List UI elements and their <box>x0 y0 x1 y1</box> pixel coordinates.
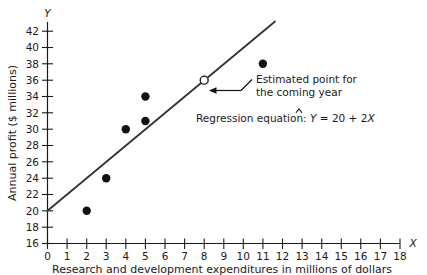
estimated-point-arrow <box>209 80 252 94</box>
data-point <box>122 125 130 133</box>
y-tick-label: 32 <box>26 107 39 119</box>
x-tick-label: 1 <box>64 250 71 262</box>
data-point <box>141 92 149 100</box>
x-tick-label: 14 <box>315 250 329 262</box>
svg-text:Regression equation: Y = 20 +: Regression equation: Y = 20 + 2X <box>196 112 375 124</box>
y-tick-label: 20 <box>26 205 39 217</box>
y-tick-label: 24 <box>26 172 40 184</box>
equation-x-symbol: X <box>366 112 375 124</box>
data-points <box>83 60 268 215</box>
y-tick-label: 42 <box>26 25 39 37</box>
estimated-point-note-line2: the coming year <box>256 86 343 98</box>
y-tick-label: 36 <box>26 74 40 86</box>
equation-prefix: Regression equation: <box>196 112 310 124</box>
estimated-point-note-line1: Estimated point for <box>256 73 358 85</box>
y-tick-label: 34 <box>26 90 40 102</box>
x-tick-label: 18 <box>393 250 406 262</box>
x-axis-title: Research and development expenditures in… <box>52 263 392 275</box>
scatter-chart-figure: 16 18 20 22 24 26 28 30 32 34 36 38 40 4… <box>0 0 427 275</box>
y-axis-letter: Y <box>44 7 52 19</box>
y-axis-title: Annual profit ($ millions) <box>6 65 19 201</box>
x-tick-label: 7 <box>181 250 188 262</box>
x-tick-label: 17 <box>374 250 387 262</box>
chart-canvas: 16 18 20 22 24 26 28 30 32 34 36 38 40 4… <box>0 0 427 275</box>
data-point <box>102 174 110 182</box>
x-tick-label: 5 <box>142 250 149 262</box>
x-tick-label: 4 <box>122 250 129 262</box>
x-tick-label: 13 <box>295 250 308 262</box>
y-axis-tick-labels: 16 18 20 22 24 26 28 30 32 34 36 38 40 4… <box>26 25 40 249</box>
equation-body: = 20 + 2 <box>316 112 367 124</box>
y-tick-label: 30 <box>26 123 39 135</box>
x-tick-label: 3 <box>103 250 110 262</box>
x-tick-label: 15 <box>335 250 348 262</box>
y-tick-label: 26 <box>26 156 40 168</box>
data-point <box>83 207 91 215</box>
y-tick-label: 18 <box>26 221 39 233</box>
data-point <box>259 60 267 68</box>
x-tick-label: 6 <box>162 250 169 262</box>
x-tick-label: 10 <box>237 250 250 262</box>
y-tick-label: 40 <box>26 41 39 53</box>
x-tick-label: 12 <box>276 250 289 262</box>
y-tick-label: 38 <box>26 58 39 70</box>
x-axis-tick-labels: 0 1 2 3 4 5 6 7 8 9 10 11 12 13 14 15 16… <box>44 250 407 262</box>
x-tick-label: 0 <box>44 250 51 262</box>
y-tick-label: 16 <box>26 237 40 249</box>
x-tick-label: 9 <box>220 250 227 262</box>
y-tick-label: 22 <box>26 188 39 200</box>
x-tick-label: 16 <box>354 250 368 262</box>
x-tick-label: 2 <box>83 250 90 262</box>
y-tick-label: 28 <box>26 139 39 151</box>
x-tick-label: 11 <box>256 250 269 262</box>
regression-equation-note: Regression equation: Y = 20 + 2X <box>196 109 375 124</box>
estimated-point-marker <box>200 76 208 84</box>
x-axis-letter: X <box>408 237 417 249</box>
data-point <box>141 117 149 125</box>
x-tick-label: 8 <box>201 250 208 262</box>
